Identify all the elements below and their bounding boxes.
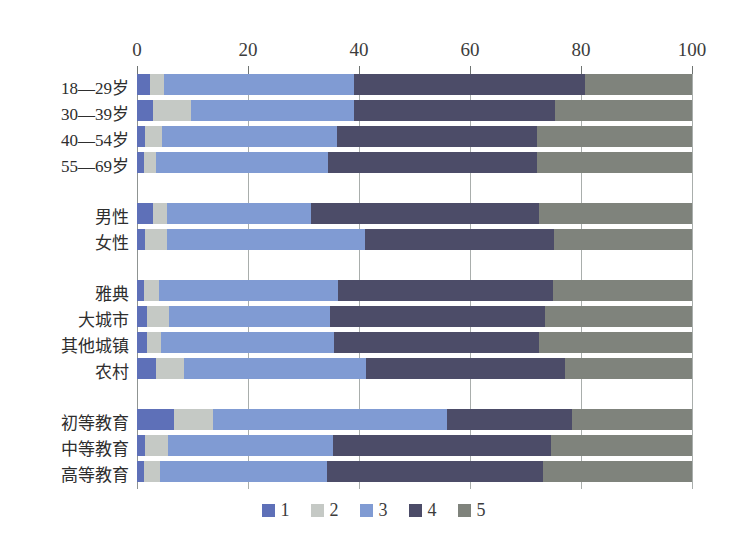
bar-segment-series-5 [585, 74, 692, 95]
bar-segment-series-1 [137, 332, 147, 353]
bar-segment-series-1 [137, 229, 145, 250]
category-label: 大城市 [78, 306, 129, 331]
legend-item-1: 1 [262, 500, 290, 521]
bar-row [137, 229, 692, 250]
bar-segment-series-3 [213, 409, 447, 430]
bar-row [137, 358, 692, 379]
bar-segment-series-4 [327, 461, 543, 482]
axis-tick-label-20: 20 [239, 39, 258, 61]
legend-item-2: 2 [311, 500, 339, 521]
bar-segment-series-2 [145, 126, 162, 147]
legend-item-3: 3 [360, 500, 388, 521]
bar-segment-series-1 [137, 126, 145, 147]
axis-tick-100 [692, 66, 693, 74]
bar-row [137, 409, 692, 430]
bar-segment-series-3 [191, 100, 354, 121]
bar-segment-series-5 [537, 126, 692, 147]
axis-tick-label-40: 40 [350, 39, 369, 61]
legend-label: 3 [379, 500, 388, 521]
category-label: 农村 [95, 358, 129, 383]
bar-segment-series-5 [572, 409, 692, 430]
category-label: 其他城镇 [61, 332, 129, 357]
legend-label: 1 [281, 500, 290, 521]
bar-segment-series-2 [145, 229, 167, 250]
category-label: 55—69岁 [61, 152, 129, 177]
bar-segment-series-2 [147, 332, 161, 353]
bar-segment-series-1 [137, 100, 153, 121]
chart-legend: 12345 [0, 500, 747, 521]
bar-segment-series-4 [338, 280, 552, 301]
bar-segment-series-1 [137, 409, 174, 430]
bar-segment-series-4 [328, 152, 537, 173]
bar-segment-series-2 [174, 409, 213, 430]
axis-tick-label-0: 0 [132, 39, 142, 61]
bar-row [137, 152, 692, 173]
bar-segment-series-5 [545, 306, 692, 327]
bar-segment-series-2 [147, 306, 169, 327]
bar-segment-series-4 [365, 229, 555, 250]
bar-segment-series-3 [160, 461, 328, 482]
stacked-bar-chart: 02040608010018—29岁30—39岁40—54岁55—69岁男性女性… [0, 0, 747, 544]
category-label: 男性 [95, 203, 129, 228]
bar-row [137, 203, 692, 224]
legend-item-5: 5 [458, 500, 486, 521]
bar-segment-series-4 [366, 358, 565, 379]
axis-tick-60 [470, 66, 471, 74]
legend-swatch-icon [360, 504, 373, 517]
axis-tick-80 [581, 66, 582, 74]
axis-tick-label-60: 60 [461, 39, 480, 61]
axis-tick-20 [248, 66, 249, 74]
legend-label: 4 [428, 500, 437, 521]
bar-row [137, 280, 692, 301]
bar-segment-series-4 [447, 409, 572, 430]
bar-segment-series-2 [145, 435, 167, 456]
bar-segment-series-1 [137, 358, 156, 379]
bar-segment-series-2 [144, 280, 159, 301]
bar-segment-series-1 [137, 74, 150, 95]
bar-segment-series-2 [153, 203, 167, 224]
bar-segment-series-1 [137, 461, 144, 482]
bar-segment-series-5 [537, 152, 692, 173]
axis-tick-0 [137, 66, 138, 74]
bar-segment-series-3 [156, 152, 328, 173]
bar-segment-series-5 [555, 100, 692, 121]
legend-swatch-icon [409, 504, 422, 517]
bar-segment-series-4 [354, 100, 555, 121]
bar-segment-series-3 [184, 358, 367, 379]
bar-segment-series-3 [167, 203, 311, 224]
axis-tick-label-80: 80 [572, 39, 591, 61]
bar-segment-series-4 [330, 306, 545, 327]
bar-row [137, 126, 692, 147]
plot-area: 02040608010018—29岁30—39岁40—54岁55—69岁男性女性… [137, 74, 692, 482]
bar-segment-series-2 [150, 74, 164, 95]
category-label: 40—54岁 [61, 126, 129, 151]
bar-segment-series-3 [161, 332, 334, 353]
bar-segment-series-1 [137, 306, 147, 327]
bar-segment-series-5 [554, 229, 692, 250]
bar-segment-series-2 [156, 358, 184, 379]
legend-item-4: 4 [409, 500, 437, 521]
bar-row [137, 435, 692, 456]
category-label: 高等教育 [61, 461, 129, 486]
bar-row [137, 461, 692, 482]
bar-segment-series-5 [539, 332, 692, 353]
axis-tick-40 [359, 66, 360, 74]
category-label: 雅典 [95, 280, 129, 305]
bar-segment-series-3 [169, 306, 331, 327]
bar-segment-series-5 [565, 358, 692, 379]
category-label: 女性 [95, 229, 129, 254]
legend-swatch-icon [458, 504, 471, 517]
bar-row [137, 332, 692, 353]
bar-segment-series-4 [333, 435, 551, 456]
category-label: 初等教育 [61, 409, 129, 434]
legend-swatch-icon [262, 504, 275, 517]
category-label: 18—29岁 [61, 74, 129, 99]
bar-segment-series-1 [137, 203, 153, 224]
bar-segment-series-4 [354, 74, 585, 95]
bar-segment-series-3 [162, 126, 337, 147]
bar-segment-series-5 [551, 435, 692, 456]
bar-segment-series-2 [153, 100, 191, 121]
bar-segment-series-1 [137, 435, 145, 456]
bar-segment-series-3 [167, 229, 365, 250]
bar-segment-series-2 [144, 461, 160, 482]
